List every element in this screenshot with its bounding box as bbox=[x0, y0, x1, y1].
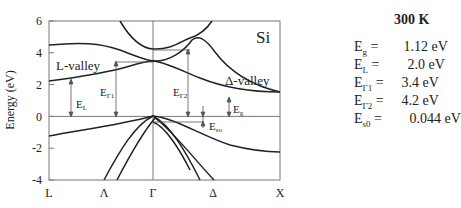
param-row-EG2: EΓ2 = 4.2 eV bbox=[354, 93, 439, 111]
param-symbol: E bbox=[354, 111, 363, 126]
param-subscript: s0 bbox=[363, 119, 371, 129]
param-row-Eso: Es0 = 0.044 eV bbox=[354, 111, 461, 129]
param-value: 3.4 eV bbox=[402, 75, 439, 91]
param-value: 1.12 eV bbox=[404, 39, 448, 55]
param-eq: = bbox=[372, 75, 383, 90]
param-eq: = bbox=[372, 93, 383, 108]
param-value: 4.2 eV bbox=[402, 93, 439, 109]
param-subscript: Γ1 bbox=[363, 83, 373, 93]
param-symbol: E bbox=[354, 93, 363, 108]
param-row-Eg: Eg = 1.12 eV bbox=[354, 39, 448, 57]
param-eq: = bbox=[367, 39, 378, 54]
param-symbol: E bbox=[354, 75, 363, 90]
param-symbol: E bbox=[354, 39, 363, 54]
param-subscript: Γ2 bbox=[363, 101, 373, 111]
param-eq: = bbox=[371, 111, 382, 126]
param-symbol: E bbox=[354, 57, 363, 72]
param-row-EL: EL = 2.0 eV bbox=[354, 57, 445, 75]
param-value: 2.0 eV bbox=[408, 57, 445, 73]
param-value: 0.044 eV bbox=[410, 111, 461, 127]
temperature-label: 300 K bbox=[394, 12, 429, 28]
param-eq: = bbox=[368, 57, 379, 72]
param-row-EG1: EΓ1 = 3.4 eV bbox=[354, 75, 439, 93]
